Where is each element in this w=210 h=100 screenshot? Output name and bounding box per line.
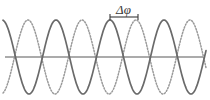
phase-difference-figure: Δφ [0, 0, 210, 100]
wave-plot [0, 0, 210, 100]
phase-difference-bracket [110, 14, 138, 20]
